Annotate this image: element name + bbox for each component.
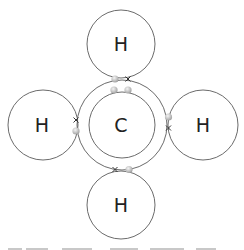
electron-dot-icon	[125, 166, 132, 173]
h-left-label: H	[35, 114, 49, 136]
electron-dot-icon	[72, 127, 79, 134]
carbon-label: C	[114, 114, 127, 136]
hydrogen-atom-top: H	[87, 10, 155, 78]
h-right-label: H	[196, 114, 210, 136]
inner-electron-pair	[110, 86, 131, 93]
hydrogen-atom-bottom: H	[87, 171, 155, 239]
hydrogen-atom-right: H	[168, 90, 238, 160]
h-bottom-label: H	[114, 194, 128, 216]
methane-dot-cross-diagram: H H H H C	[0, 0, 244, 250]
bond-c-h-top	[111, 75, 130, 82]
electron-dot-icon	[110, 86, 117, 93]
electron-dot-icon	[111, 75, 118, 82]
bond-c-h-left	[72, 118, 79, 135]
h-top-label: H	[114, 33, 128, 55]
bond-c-h-bottom	[113, 166, 133, 173]
carbon-atom: C	[77, 80, 167, 170]
electron-dot-icon	[124, 86, 131, 93]
electron-dot-icon	[165, 113, 172, 120]
hydrogen-atom-left: H	[8, 90, 78, 160]
